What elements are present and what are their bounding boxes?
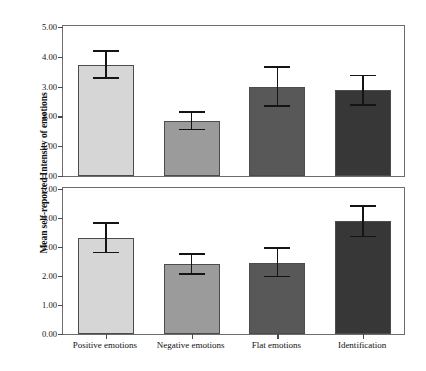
y-axis-tick-label: 4.00 — [42, 53, 57, 62]
plot-area-bottom: 0.001.002.003.004.005.00 — [63, 188, 404, 334]
x-axis-tick-mark — [363, 334, 364, 339]
y-axis-tick-mark — [58, 27, 63, 28]
y-axis-tick-label: 3.00 — [42, 243, 57, 252]
bar-chart-figure: Mean self-reported Intensity of emotions… — [0, 0, 426, 371]
error-bar-cap-lower — [93, 252, 119, 254]
y-axis-tick-mark — [58, 218, 63, 219]
error-bar-cap-lower — [179, 273, 205, 275]
x-axis-tick-mark — [277, 334, 278, 339]
error-bar-stem — [277, 247, 279, 277]
y-axis-tick-label: 0.00 — [42, 330, 57, 339]
y-axis-tick-mark — [58, 146, 63, 147]
error-bar-cap-upper — [93, 222, 119, 224]
error-bar-stem — [277, 66, 279, 107]
error-bar — [347, 205, 379, 237]
y-axis-tick-label: 2.00 — [42, 272, 57, 281]
error-bar-stem — [362, 205, 364, 237]
y-axis-tick-mark — [58, 57, 63, 58]
y-axis-tick-label: 1.00 — [42, 142, 57, 151]
bar — [78, 65, 134, 176]
error-bar-stem — [362, 75, 364, 106]
bar — [164, 264, 220, 334]
error-bar-cap-lower — [179, 129, 205, 131]
x-axis-category-label: Negative emotions — [157, 341, 225, 350]
y-axis-tick-label: 1.00 — [42, 301, 57, 310]
y-axis-tick-label: 4.00 — [42, 214, 57, 223]
chart-panel-top: 0.001.002.003.004.005.00 — [62, 25, 405, 177]
error-bar-stem — [191, 253, 193, 274]
y-axis-tick-mark — [58, 305, 63, 306]
x-axis-category-label: Positive emotions — [73, 341, 137, 350]
error-bar-cap-upper — [264, 247, 290, 249]
y-axis-tick-mark — [58, 116, 63, 117]
chart-panel-bottom: 0.001.002.003.004.005.00 — [62, 187, 405, 335]
y-axis-tick-mark — [58, 276, 63, 277]
y-axis-tick-mark — [58, 87, 63, 88]
error-bar — [176, 111, 208, 130]
x-axis-tick-mark — [192, 334, 193, 339]
error-bar — [261, 247, 293, 277]
error-bar-cap-upper — [350, 205, 376, 207]
y-axis-tick-label: 5.00 — [42, 23, 57, 32]
error-bar — [90, 222, 122, 254]
error-bar-cap-lower — [264, 276, 290, 278]
x-axis-category-label: Flat emotions — [252, 341, 301, 350]
error-bar — [176, 253, 208, 274]
error-bar-cap-upper — [264, 66, 290, 68]
error-bar-stem — [105, 50, 107, 79]
y-axis-tick-label: 0.00 — [42, 172, 57, 181]
x-axis-tick-mark — [106, 334, 107, 339]
error-bar-cap-upper — [179, 111, 205, 113]
plot-area-top: 0.001.002.003.004.005.00 — [63, 26, 404, 176]
error-bar-cap-lower — [350, 236, 376, 238]
x-axis-category-label: Identification — [338, 341, 386, 350]
y-axis-tick-mark — [58, 334, 63, 335]
error-bar-cap-lower — [350, 104, 376, 106]
x-axis-category-labels: Positive emotionsNegative emotionsFlat e… — [62, 341, 405, 359]
error-bar — [347, 75, 379, 106]
error-bar-cap-upper — [93, 50, 119, 52]
y-axis-tick-mark — [58, 189, 63, 190]
error-bar-stem — [191, 111, 193, 130]
error-bar-cap-upper — [179, 253, 205, 255]
error-bar-cap-lower — [93, 77, 119, 79]
y-axis-tick-label: 5.00 — [42, 185, 57, 194]
error-bar — [90, 50, 122, 79]
bar — [335, 221, 391, 334]
y-axis-tick-mark — [58, 247, 63, 248]
error-bar-cap-lower — [264, 105, 290, 107]
error-bar-cap-upper — [350, 75, 376, 77]
error-bar-stem — [105, 222, 107, 254]
y-axis-tick-label: 2.00 — [42, 112, 57, 121]
y-axis-tick-mark — [58, 176, 63, 177]
error-bar — [261, 66, 293, 107]
y-axis-tick-label: 3.00 — [42, 82, 57, 91]
